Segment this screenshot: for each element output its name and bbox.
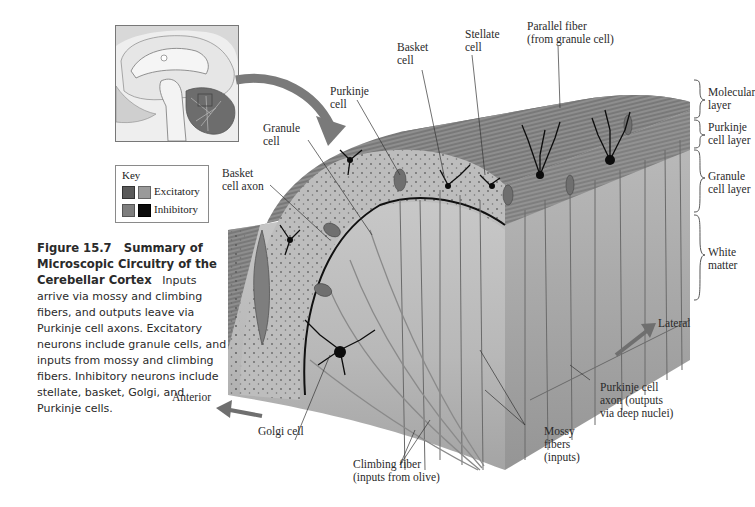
caption-line: Purkinje cells.: [37, 401, 247, 417]
label-purkinje-axon: Purkinje cell axon (outputs via deep nuc…: [600, 381, 673, 420]
label-molecular-layer: Molecular layer: [708, 86, 755, 112]
inhibitory-swatch-gray: [122, 204, 135, 217]
label-basket-cell: Basket cell: [397, 41, 428, 67]
legend-key: Key Excitatory Inhibitory: [115, 165, 209, 223]
caption-line: stellate, basket, Golgi, and: [37, 385, 247, 401]
caption-line: inputs from mossy and climbing: [37, 353, 247, 369]
label-stellate-cell: Stellate cell: [465, 28, 500, 54]
excitatory-swatch-light: [138, 186, 151, 199]
excitatory-swatch-dark: [122, 186, 135, 199]
label-purkinje-cell-layer: Purkinje cell layer: [708, 121, 750, 147]
label-basket-cell-axon: Basket cell axon: [222, 167, 264, 193]
caption-title-1: Figure 15.7 Summary of: [37, 240, 247, 256]
caption-line: arrive via mossy and climbing: [37, 289, 247, 305]
label-anterior: Anterior: [172, 391, 211, 404]
label-white-matter: White matter: [708, 246, 737, 272]
caption-line: Purkinje cell axons. Excitatory: [37, 321, 247, 337]
caption-line: fibers. Inhibitory neurons include: [37, 369, 247, 385]
caption-title-2: Microscopic Circuitry of the: [37, 256, 247, 272]
caption-line: neurons include granule cells, and: [37, 337, 247, 353]
key-excitatory-label: Excitatory: [154, 185, 200, 197]
caption-body-start: Inputs: [162, 274, 196, 287]
caption-line: fibers, and outputs leave via: [37, 305, 247, 321]
key-title: Key: [122, 169, 140, 181]
label-purkinje-cell: Purkinje cell: [330, 85, 369, 111]
label-granule-cell: Granule cell: [263, 122, 300, 148]
layer-braces: [694, 80, 705, 300]
key-inhibitory-label: Inhibitory: [154, 203, 198, 215]
label-granule-cell-layer: Granule cell layer: [708, 170, 750, 196]
label-climbing-fiber: Climbing fiber (inputs from olive): [353, 458, 440, 484]
figure-caption: Figure 15.7 Summary of Microscopic Circu…: [37, 240, 247, 417]
label-parallel-fiber: Parallel fiber (from granule cell): [527, 20, 614, 46]
label-lateral: Lateral: [658, 317, 691, 330]
pointer-arrow: [236, 78, 330, 125]
label-golgi-cell: Golgi cell: [258, 425, 304, 438]
caption-title-3: Cerebellar Cortex: [37, 273, 152, 287]
inhibitory-swatch-black: [138, 204, 151, 217]
label-mossy-fibers: Mossy fibers (inputs): [544, 425, 580, 464]
